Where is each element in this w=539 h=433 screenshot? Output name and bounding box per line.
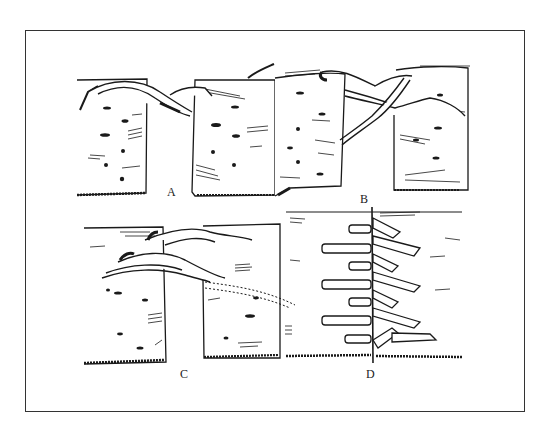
illustration: [0, 0, 539, 433]
panel-a: [77, 64, 275, 196]
panel-a-right-piece: [192, 80, 275, 196]
panel-b: [275, 66, 470, 196]
panel-label-a: A: [167, 185, 176, 200]
panel-label-d: D: [366, 367, 375, 382]
panel-b-left-piece: [275, 70, 345, 196]
panel-c-left-piece: [84, 227, 166, 364]
panel-c-right-piece: [203, 224, 280, 358]
panel-label-b: B: [360, 192, 368, 207]
panel-c: [84, 224, 295, 364]
panel-d-lace: [322, 218, 436, 348]
panel-d: [285, 207, 462, 363]
panel-label-c: C: [180, 367, 188, 382]
